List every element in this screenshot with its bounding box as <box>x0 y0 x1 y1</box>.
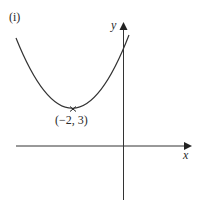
y-axis-label: y <box>111 19 116 31</box>
vertex-label: (−2, 3) <box>55 114 88 126</box>
parabola-curve <box>16 35 129 108</box>
y-axis-arrow-icon <box>120 22 128 30</box>
part-label: (i) <box>9 11 20 23</box>
x-axis-label: x <box>183 149 188 161</box>
graph-figure: (i) y x (−2, 3) <box>0 0 202 201</box>
vertex-marker-icon <box>70 107 76 112</box>
graph-canvas <box>0 0 202 201</box>
